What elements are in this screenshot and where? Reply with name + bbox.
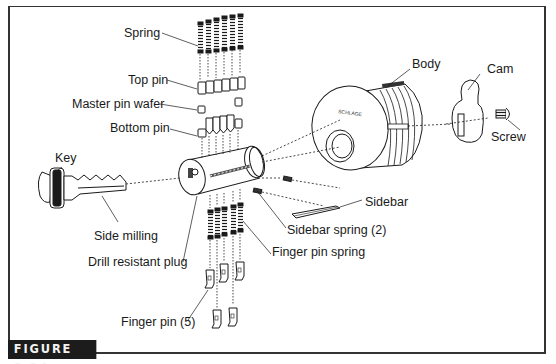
top-springs bbox=[198, 14, 243, 53]
cam-illustration bbox=[446, 80, 488, 142]
master-pin-wafers bbox=[198, 98, 242, 113]
label-sidebar: Sidebar bbox=[365, 196, 408, 209]
guide-lines-top bbox=[200, 50, 240, 80]
key-guide-line bbox=[126, 178, 180, 184]
label-side-milling: Side milling bbox=[94, 230, 158, 243]
label-top-pin: Top pin bbox=[128, 74, 168, 87]
top-pins bbox=[198, 77, 245, 94]
sidebar-springs bbox=[253, 176, 340, 206]
finger-pin-springs bbox=[208, 203, 243, 239]
key-illustration bbox=[38, 168, 126, 208]
label-finger-pin: Finger pin (5) bbox=[121, 316, 195, 329]
label-cam: Cam bbox=[487, 63, 513, 76]
figure-caption-badge: FIGURE 8.24 bbox=[8, 340, 96, 359]
exploded-lock-diagram: SCHLAGE bbox=[0, 0, 556, 364]
label-screw: Screw bbox=[491, 131, 526, 144]
finger-pins bbox=[205, 262, 244, 328]
label-sidebar-spring: Sidebar spring (2) bbox=[287, 224, 386, 237]
lock-body bbox=[307, 81, 423, 175]
sidebar-illustration bbox=[292, 206, 340, 218]
label-finger-pin-spring: Finger pin spring bbox=[272, 246, 365, 259]
screw-illustration bbox=[496, 108, 510, 120]
label-body: Body bbox=[412, 58, 441, 71]
label-key: Key bbox=[55, 152, 77, 165]
label-master-pin-wafer: Master pin wafer bbox=[72, 98, 164, 111]
label-drill-resistant-plug: Drill resistant plug bbox=[88, 256, 187, 269]
label-bottom-pin: Bottom pin bbox=[110, 122, 170, 135]
bottom-pins bbox=[198, 115, 242, 137]
label-spring: Spring bbox=[124, 27, 160, 40]
